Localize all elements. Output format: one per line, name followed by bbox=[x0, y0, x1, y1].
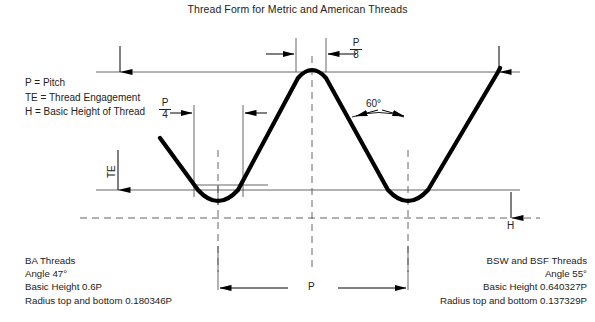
p8-numerator: P bbox=[349, 38, 363, 49]
diagram-canvas: Thread Form for Metric and American Thre… bbox=[0, 0, 595, 322]
p8-extension-lines bbox=[296, 38, 326, 72]
legend: P = Pitch TE = Thread Engagement H = Bas… bbox=[25, 76, 145, 120]
h-label: H bbox=[507, 220, 514, 231]
thread-profile-curve bbox=[160, 68, 500, 201]
bsw-note-line-3: Basic Height 0.640327P bbox=[440, 280, 587, 293]
p8-denominator: 8 bbox=[349, 50, 363, 61]
bsw-note-line-1: BSW and BSF Threads bbox=[440, 254, 587, 267]
ba-note-line-4: Radius top and bottom 0.180346P bbox=[25, 294, 172, 307]
ba-note-line-3: Basic Height 0.6P bbox=[25, 280, 172, 293]
angle-label: 60° bbox=[366, 98, 381, 109]
ba-note-line-1: BA Threads bbox=[25, 254, 172, 267]
construction-lines bbox=[80, 72, 540, 218]
center-lines bbox=[218, 56, 408, 272]
bsw-note-line-2: Angle 55° bbox=[440, 267, 587, 280]
p8-fraction-label: P 8 bbox=[349, 38, 363, 60]
legend-item-pitch: P = Pitch bbox=[25, 76, 145, 91]
pitch-label: P bbox=[308, 281, 315, 292]
ba-note-line-2: Angle 47° bbox=[25, 267, 172, 280]
p4-fraction-label: P 4 bbox=[158, 98, 172, 120]
p4-numerator: P bbox=[158, 98, 172, 109]
bsw-note-line-4: Radius top and bottom 0.137329P bbox=[440, 294, 587, 307]
te-label: TE bbox=[106, 165, 117, 178]
p4-denominator: 4 bbox=[158, 110, 172, 121]
legend-item-basic-height: H = Basic Height of Thread bbox=[25, 105, 145, 120]
ba-threads-note: BA Threads Angle 47° Basic Height 0.6P R… bbox=[25, 254, 172, 307]
bsw-bsf-threads-note: BSW and BSF Threads Angle 55° Basic Heig… bbox=[440, 254, 587, 307]
legend-item-thread-engagement: TE = Thread Engagement bbox=[25, 91, 145, 106]
